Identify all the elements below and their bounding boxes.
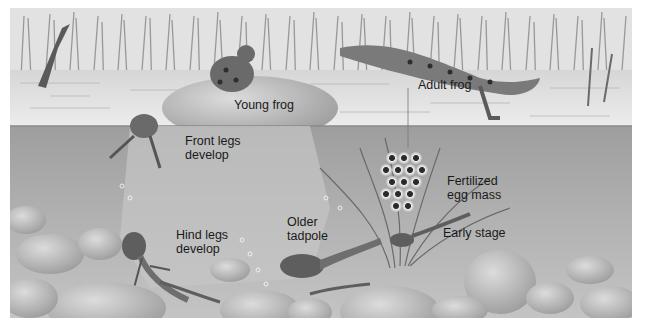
label-front-legs-line2: develop	[185, 148, 241, 162]
label-fertilized-line2: egg mass	[447, 188, 501, 202]
label-hind-legs-line1: Hind legs	[176, 228, 228, 242]
label-early-stage: Early stage	[443, 226, 506, 240]
label-hind-legs-develop: Hind legs develop	[176, 228, 228, 256]
scene-artwork	[10, 8, 632, 318]
label-adult-frog: Adult frog	[418, 78, 472, 92]
label-older-tadpole: Older tadpole	[287, 215, 328, 243]
label-older-tadpole-line2: tadpole	[287, 229, 328, 243]
label-hind-legs-line2: develop	[176, 242, 228, 256]
label-older-tadpole-line1: Older	[287, 215, 328, 229]
label-front-legs-line1: Front legs	[185, 134, 241, 148]
label-front-legs-develop: Front legs develop	[185, 134, 241, 162]
label-fertilized-egg-mass: Fertilized egg mass	[447, 174, 501, 202]
label-young-frog: Young frog	[234, 98, 294, 112]
frog-life-cycle-illustration: Young frog Adult frog Front legs develop…	[10, 8, 632, 318]
label-fertilized-line1: Fertilized	[447, 174, 501, 188]
